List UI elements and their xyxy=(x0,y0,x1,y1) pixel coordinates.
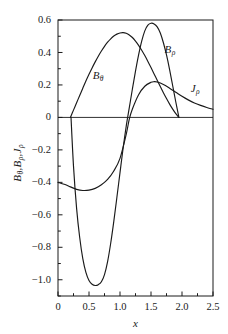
curve-label-subscript: ρ xyxy=(171,48,175,57)
x-tick-label: 0 xyxy=(55,302,60,313)
y-tick-label: 0.2 xyxy=(0,80,51,91)
axis-ticks xyxy=(58,20,213,296)
y-tick-label: 0 xyxy=(0,112,51,123)
y-tick-label: −0.8 xyxy=(0,242,51,253)
y-axis-title-separator: , xyxy=(11,153,23,156)
y-axis-title-symbol: B xyxy=(11,175,23,182)
curve-1 xyxy=(70,33,178,118)
y-tick-label: −0.4 xyxy=(0,177,51,188)
y-axis-title-symbol: J xyxy=(11,148,23,153)
plot-frame xyxy=(58,20,213,296)
axes-frame xyxy=(58,20,213,296)
x-tick-label: 1.0 xyxy=(113,302,126,313)
y-tick-label: 0.6 xyxy=(0,15,51,26)
x-tick-label: 0.5 xyxy=(82,302,95,313)
x-axis-title: x xyxy=(133,317,138,329)
y-axis-title-subscript: θ xyxy=(16,170,25,174)
curve-2 xyxy=(58,82,213,191)
curve-label-1: Bθ xyxy=(93,69,104,83)
curve-3 xyxy=(71,23,179,285)
x-tick-label: 1.5 xyxy=(144,302,157,313)
y-tick-label: 0.4 xyxy=(0,47,51,58)
y-tick-label: −1.0 xyxy=(0,275,51,286)
figure-container: 0.60.40.20−0.2−0.4−0.6−0.8−1.0 00.51.01.… xyxy=(0,0,228,334)
curve-label-subscript: θ xyxy=(99,74,103,83)
x-tick-label: 2.0 xyxy=(175,302,188,313)
y-axis-title-subscript: ρ xyxy=(16,156,25,160)
data-curves xyxy=(58,23,213,285)
curve-label-symbol: J xyxy=(191,82,196,94)
y-tick-label: −0.2 xyxy=(0,145,51,156)
y-tick-label: −0.6 xyxy=(0,210,51,221)
y-axis-title-symbol: B xyxy=(11,161,23,168)
y-axis-title: Bθ,Bρ,Jρ xyxy=(11,144,25,182)
curve-label-subscript: ρ xyxy=(196,87,200,96)
y-axis-title-subscript: ρ xyxy=(16,144,25,148)
curve-label-2: Bρ xyxy=(165,43,176,57)
x-tick-label: 2.5 xyxy=(206,302,219,313)
curve-label-3: Jρ xyxy=(191,82,200,96)
y-axis-title-separator: , xyxy=(11,168,23,171)
